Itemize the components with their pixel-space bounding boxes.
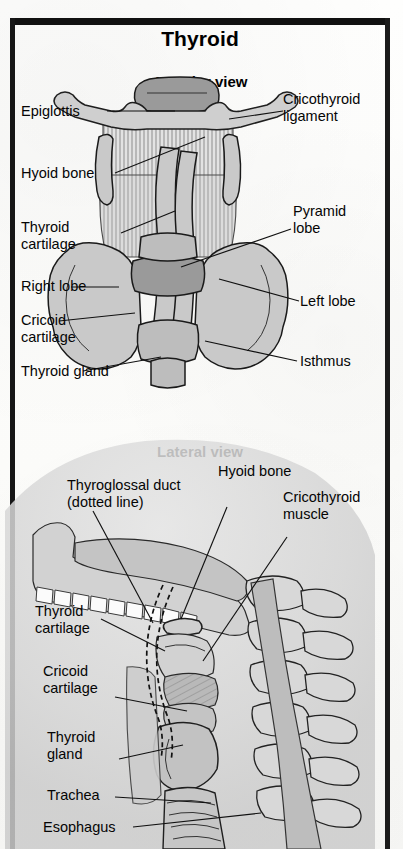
cricothyroid-ligament-shape (139, 233, 197, 261)
anterior-view-panel: Thyroid Anterior view (15, 25, 385, 415)
superior-horn-right-shape (223, 134, 241, 205)
label-cricoid-cartilage-lateral: Cricoid cartilage (43, 663, 98, 696)
label-thyroid-gland-lateral: Thyroid gland (47, 729, 95, 762)
label-esophagus: Esophagus (43, 819, 116, 836)
label-thyroid-gland: Thyroid gland (21, 363, 109, 380)
label-trachea: Trachea (47, 787, 100, 804)
label-hyoid-bone: Hyoid bone (21, 165, 94, 182)
label-cricothyroid-muscle: Cricothyroid muscle (283, 489, 360, 522)
label-thyroglossal-duct: Thyroglossal duct (dotted line) (67, 477, 181, 510)
thyroid-gland-lateral-shape (153, 722, 218, 791)
epiglottis-shape (134, 77, 219, 113)
strap-muscle-shape (127, 667, 161, 804)
label-isthmus: Isthmus (300, 353, 351, 370)
cricoid-cartilage-shape (131, 256, 204, 296)
page-frame-top-rule (10, 18, 390, 25)
page-frame-right-rule (385, 18, 390, 849)
right-lobe-shape (48, 243, 141, 369)
label-left-lobe: Left lobe (300, 293, 356, 310)
label-thyroid-cartilage: Thyroid cartilage (21, 219, 76, 252)
label-hyoid-bone-lateral: Hyoid bone (218, 463, 291, 480)
label-cricothyroid-ligament: Cricothyroid ligament (283, 91, 360, 124)
superior-horn-left-shape (95, 134, 113, 205)
lateral-view-panel: Lateral view (15, 415, 385, 849)
label-thyroid-cartilage-lateral: Thyroid cartilage (35, 603, 90, 636)
trachea-stub-shape (151, 358, 185, 388)
label-pyramid-lobe: Pyramid lobe (293, 203, 346, 236)
label-right-lobe: Right lobe (21, 278, 86, 295)
left-lobe-shape (195, 243, 288, 369)
label-cricoid-cartilage: Cricoid cartilage (21, 312, 76, 345)
label-epiglottis: Epiglottis (21, 103, 80, 120)
hyoid-bone-lateral-shape (163, 618, 202, 635)
